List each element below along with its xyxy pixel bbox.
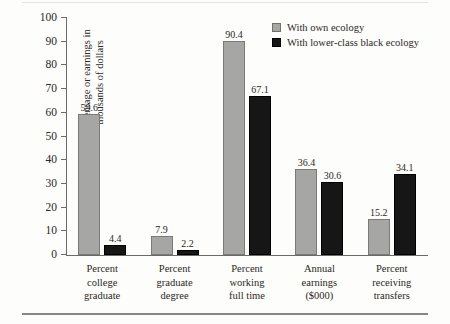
y-axis-tick: 0 <box>61 254 66 255</box>
category-label-line: Percent <box>211 262 283 276</box>
y-axis-tick: 30 <box>61 183 66 184</box>
category-label-line: working <box>211 276 283 290</box>
category-label-line: full time <box>211 289 283 303</box>
page-rule-bottom <box>22 313 428 315</box>
bar-own-ecology: 59.6 <box>78 114 100 255</box>
bar-own-ecology: 36.4 <box>295 169 317 255</box>
category-label-line: degree <box>138 289 210 303</box>
category-label-line: transfers <box>356 289 428 303</box>
y-axis-tick-label: 100 <box>40 8 57 26</box>
x-axis-category-label: Percentgraduatedegree <box>138 262 210 303</box>
bar-value-label: 34.1 <box>396 162 414 173</box>
y-axis-tick: 60 <box>61 112 66 113</box>
figure: Percentage or earnings in thousands of d… <box>0 0 450 324</box>
legend-item-black: With lower-class black ecology <box>272 35 419 50</box>
y-axis-tick-label: 50 <box>46 127 58 145</box>
bar-value-label: 90.4 <box>225 29 243 40</box>
y-axis-tick: 10 <box>61 230 66 231</box>
y-axis-tick-label: 20 <box>46 198 58 216</box>
category-label-line: earnings <box>283 276 355 290</box>
y-axis-tick: 20 <box>61 207 66 208</box>
x-axis-category-label: Percentworkingfull time <box>211 262 283 303</box>
legend-swatch-icon-black <box>272 38 281 47</box>
category-label-line: Percent <box>66 262 138 276</box>
x-axis-line <box>66 255 428 256</box>
legend: With own ecology With lower-class black … <box>272 20 419 50</box>
bar-black-ecology: 2.2 <box>177 250 199 255</box>
y-axis-tick: 90 <box>61 41 66 42</box>
category-label-line: Percent <box>356 262 428 276</box>
bar-value-label: 36.4 <box>298 157 316 168</box>
bar-value-label: 4.4 <box>109 233 122 244</box>
bar-black-ecology: 34.1 <box>394 174 416 255</box>
x-axis-category-label: Percentreceivingtransfers <box>356 262 428 303</box>
legend-label-black: With lower-class black ecology <box>287 35 419 50</box>
category-label-line: ($000) <box>283 289 355 303</box>
page-rule-top <box>22 2 428 3</box>
bar-value-label: 2.2 <box>181 238 194 249</box>
category-label-line: college <box>66 276 138 290</box>
y-axis-tick-label: 40 <box>46 150 58 168</box>
category-label-line: graduate <box>66 289 138 303</box>
legend-item-own: With own ecology <box>272 20 419 35</box>
y-axis-tick-label: 60 <box>46 103 58 121</box>
y-axis-tick-label: 70 <box>46 79 58 97</box>
plot-area: Percentage or earnings in thousands of d… <box>66 18 428 255</box>
bar-value-label: 59.6 <box>80 102 98 113</box>
x-axis-category-label: Percentcollegegraduate <box>66 262 138 303</box>
bar-own-ecology: 7.9 <box>151 236 173 255</box>
y-axis-tick-label: 90 <box>46 32 58 50</box>
legend-swatch-icon-own <box>272 23 281 32</box>
legend-label-own: With own ecology <box>287 20 364 35</box>
category-label-line: Annual <box>283 262 355 276</box>
category-label-line: receiving <box>356 276 428 290</box>
y-axis-tick: 70 <box>61 88 66 89</box>
y-axis-tick-label: 30 <box>46 174 58 192</box>
bar-value-label: 15.2 <box>370 207 388 218</box>
y-axis-tick: 50 <box>61 136 66 137</box>
y-axis-tick-label: 80 <box>46 55 58 73</box>
y-axis-tick-label: 10 <box>46 221 58 239</box>
y-axis-tick-label: 0 <box>51 245 57 263</box>
bar-black-ecology: 67.1 <box>249 96 271 255</box>
bar-value-label: 30.6 <box>324 170 342 181</box>
category-label-line: graduate <box>138 276 210 290</box>
y-axis-tick: 40 <box>61 159 66 160</box>
y-axis-tick: 100 <box>61 17 66 18</box>
bar-value-label: 67.1 <box>251 84 269 95</box>
x-axis-category-label: Annualearnings($000) <box>283 262 355 303</box>
y-axis-tick: 80 <box>61 64 66 65</box>
bar-own-ecology: 90.4 <box>223 41 245 255</box>
category-label-line: Percent <box>138 262 210 276</box>
bar-black-ecology: 4.4 <box>104 245 126 255</box>
bar-value-label: 7.9 <box>155 224 168 235</box>
bar-own-ecology: 15.2 <box>368 219 390 255</box>
bar-black-ecology: 30.6 <box>321 182 343 255</box>
